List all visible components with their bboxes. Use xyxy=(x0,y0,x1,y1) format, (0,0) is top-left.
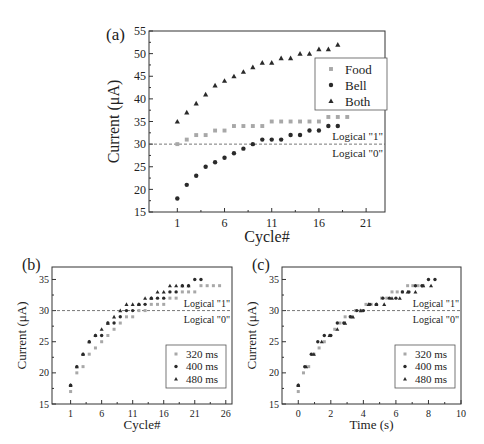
circle-marker xyxy=(162,296,165,299)
circle-marker xyxy=(125,309,128,312)
x-axis-label: Time (s) xyxy=(350,417,394,432)
square-marker xyxy=(199,284,202,287)
triangle-marker xyxy=(335,42,340,47)
legend-entry: Both xyxy=(345,94,371,109)
circle-marker xyxy=(316,340,319,343)
y-tick-label: 35 xyxy=(39,274,49,285)
chart-c-svg: 15202530350246810Time (s)Current (μA)(c)… xyxy=(242,250,484,444)
triangle-marker xyxy=(194,101,199,106)
x-tick-label: 0 xyxy=(296,408,301,419)
circle-marker xyxy=(414,284,417,287)
square-marker xyxy=(251,124,255,128)
triangle-marker xyxy=(429,284,433,288)
chart-panel-b: 15202530351611162126Cycle#Current (μA)(b… xyxy=(0,250,242,444)
triangle-marker xyxy=(143,296,147,300)
square-marker xyxy=(212,284,215,287)
triangle-marker xyxy=(112,315,116,319)
circle-marker xyxy=(174,365,177,368)
square-marker xyxy=(396,290,399,293)
triangle-marker xyxy=(175,119,180,124)
legend-entry: 400 ms xyxy=(415,360,447,372)
square-marker xyxy=(270,120,274,124)
triangle-marker xyxy=(184,110,189,115)
circle-marker xyxy=(175,196,179,200)
x-tick-label: 1 xyxy=(68,408,73,419)
x-tick-label: 26 xyxy=(221,408,231,419)
triangle-marker xyxy=(288,56,293,61)
chart-panel-a: 15202530354045505516111621Cycle#Current … xyxy=(0,0,484,250)
x-axis-label: Cycle# xyxy=(124,417,161,432)
y-tick-label: 30 xyxy=(134,137,146,151)
triangle-marker xyxy=(203,92,208,97)
chart-a-svg: 15202530354045505516111621Cycle#Current … xyxy=(0,0,484,250)
circle-marker xyxy=(185,183,189,187)
square-marker xyxy=(213,129,217,133)
square-marker xyxy=(406,284,409,287)
y-tick-label: 20 xyxy=(134,183,146,197)
square-marker xyxy=(206,284,209,287)
circle-marker xyxy=(298,133,302,137)
legend-entry: Food xyxy=(345,62,372,77)
triangle-marker xyxy=(222,78,227,83)
square-marker xyxy=(223,129,227,133)
triangle-marker xyxy=(241,69,246,74)
triangle-marker xyxy=(326,47,331,52)
triangle-marker xyxy=(316,47,321,52)
legend-entry: 320 ms xyxy=(415,348,447,360)
triangle-marker xyxy=(413,290,417,294)
circle-marker xyxy=(307,128,311,132)
circle-marker xyxy=(403,365,406,368)
y-tick-label: 15 xyxy=(134,205,146,219)
triangle-marker xyxy=(269,60,274,65)
square-marker xyxy=(404,353,407,356)
x-tick-label: 6 xyxy=(99,408,104,419)
triangle-marker xyxy=(162,290,166,294)
triangle-marker xyxy=(212,83,217,88)
y-tick-label: 25 xyxy=(39,336,49,347)
square-marker xyxy=(75,371,78,374)
series-bell xyxy=(175,124,340,201)
triangle-marker xyxy=(156,290,160,294)
square-marker xyxy=(260,124,264,128)
x-tick-label: 16 xyxy=(313,216,325,230)
circle-marker xyxy=(329,83,333,87)
square-marker xyxy=(175,353,178,356)
square-marker xyxy=(144,309,147,312)
x-tick-label: 21 xyxy=(360,216,372,230)
square-marker xyxy=(336,115,340,119)
square-marker xyxy=(318,346,321,349)
circle-marker xyxy=(199,278,202,281)
square-marker xyxy=(218,284,221,287)
square-marker xyxy=(82,365,85,368)
triangle-marker xyxy=(131,302,135,306)
square-marker xyxy=(194,133,198,137)
square-marker xyxy=(162,303,165,306)
circle-marker xyxy=(251,142,255,146)
logical-1-label: Logical "1" xyxy=(184,298,230,309)
y-tick-label: 55 xyxy=(134,24,146,38)
circle-marker xyxy=(336,321,339,324)
y-tick-label: 25 xyxy=(134,160,146,174)
x-tick-label: 8 xyxy=(426,408,431,419)
square-marker xyxy=(302,371,305,374)
legend-entry: Bell xyxy=(345,78,367,93)
circle-marker xyxy=(336,124,340,128)
square-marker xyxy=(298,120,302,124)
square-marker xyxy=(232,124,236,128)
triangle-marker xyxy=(307,51,312,56)
x-tick-label: 6 xyxy=(222,216,228,230)
logical-0-label: Logical "0" xyxy=(184,314,230,325)
triangle-marker xyxy=(100,327,104,331)
circle-marker xyxy=(433,278,436,281)
square-marker xyxy=(279,120,283,124)
square-marker xyxy=(168,297,171,300)
circle-marker xyxy=(355,309,358,312)
circle-marker xyxy=(326,124,330,128)
y-tick-label: 20 xyxy=(39,367,49,378)
square-marker xyxy=(308,120,312,124)
panel-label: (a) xyxy=(106,25,125,44)
triangle-marker xyxy=(231,74,236,79)
chart-panel-c: 15202530350246810Time (s)Current (μA)(c)… xyxy=(242,250,484,444)
y-tick-label: 20 xyxy=(269,367,279,378)
triangle-marker xyxy=(174,284,178,288)
